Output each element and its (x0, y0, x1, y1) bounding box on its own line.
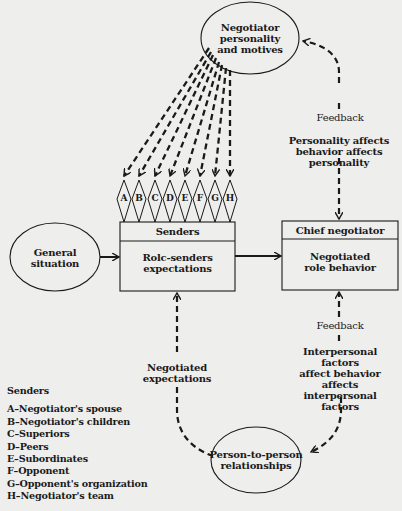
sender-code-b: B (134, 193, 144, 203)
personality-line-2: personality (205, 33, 295, 44)
sender-code-f: F (195, 193, 205, 203)
chief-box-body: Negotiated role behavior (282, 251, 398, 273)
top-feedback-note: Personality affects behavior affects per… (286, 135, 392, 168)
general-situation-label: General situation (15, 247, 95, 269)
bottom-feedback-label: Feedback (300, 320, 380, 331)
general-line-2: situation (15, 258, 95, 269)
sender-code-a: A (119, 193, 129, 203)
bottom-feedback-note: Interpersonal factors affect behavior af… (286, 346, 394, 412)
relationships-label: Person-to-person relationships (206, 449, 306, 471)
negotiated-expectations-label: Negotiated expectations (137, 362, 217, 384)
top-feedback-arrow (303, 41, 339, 219)
personality-label: Negotiator personality and motives (205, 22, 295, 55)
sender-code-h: H (225, 193, 235, 203)
senders-body-line-2: expectations (120, 263, 235, 274)
senders-box-header: Senders (120, 226, 235, 237)
sender-influence-arrows (124, 48, 230, 176)
legend-item: A–Negotiator's spouse (7, 403, 147, 415)
bottom-note-line-1: Interpersonal factors (286, 346, 394, 368)
legend-title: Senders (7, 385, 147, 397)
top-note-line-3: personality (286, 157, 392, 168)
top-note-line-1: Personality affects (286, 135, 392, 146)
general-line-1: General (15, 247, 95, 258)
senders-body-line-1: Rolc-senders (120, 252, 235, 263)
top-feedback-label: Feedback (300, 112, 380, 123)
legend-item: B–Negotiator's children (7, 416, 147, 428)
relationships-line-2: relationships (206, 460, 306, 471)
chief-body-line-2: role behavior (282, 262, 398, 273)
senders-legend: Senders A–Negotiator's spouse B–Negotiat… (7, 385, 147, 503)
legend-item: G–Opponent's organization (7, 478, 147, 490)
sender-code-c: C (150, 193, 160, 203)
personality-line-3: and motives (205, 44, 295, 55)
chief-box-header: Chief negotiator (282, 225, 398, 236)
sender-code-d: D (165, 193, 175, 203)
legend-item: E–Subordinates (7, 453, 147, 465)
legend-item: D–Peers (7, 441, 147, 453)
bottom-note-line-4: factors (286, 401, 394, 412)
sender-code-g: G (210, 193, 220, 203)
relationships-line-1: Person-to-person (206, 449, 306, 460)
legend-item: C–Superiors (7, 428, 147, 440)
sender-code-e: E (180, 193, 190, 203)
top-note-line-2: behavior affects (286, 146, 392, 157)
senders-box-body: Rolc-senders expectations (120, 252, 235, 274)
personality-line-1: Negotiator (205, 22, 295, 33)
neg-exp-line-2: expectations (137, 373, 217, 384)
chief-body-line-1: Negotiated (282, 251, 398, 262)
bottom-note-line-3: interpersonal (286, 390, 394, 401)
legend-item: H–Negotiator's team (7, 490, 147, 502)
bottom-note-line-2: affect behavior affects (286, 368, 394, 390)
legend-item: F–Opponent (7, 465, 147, 477)
neg-exp-line-1: Negotiated (137, 362, 217, 373)
